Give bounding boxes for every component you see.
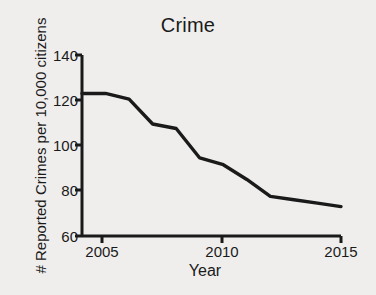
data-series-line [82,93,341,206]
y-axis [75,55,82,236]
x-axis [82,236,341,243]
chart-figure: Crime # Reported Crimes per 10,000 citiz… [0,0,376,295]
plot-area [0,0,376,295]
